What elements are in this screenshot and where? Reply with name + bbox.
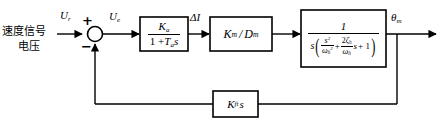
delta-current-label: ΔI [190, 12, 200, 23]
plant-outer-s: s [310, 40, 314, 51]
plant-denominator: s( s2 ωh2 + 2ζh ωh s+ 1) [308, 34, 378, 58]
error-signal-label: Ue [109, 11, 120, 24]
motor-gain-block: Km/Dm [210, 17, 272, 51]
plant-close-paren: ) [371, 35, 375, 58]
input-signal-subscript: r [68, 15, 71, 23]
plant-numerator: 1 [308, 20, 378, 34]
plant-term2: 2ζh ωh [341, 36, 353, 55]
plant-fraction: 1 s( s2 ωh2 + 2ζh ωh s+ 1) [308, 20, 378, 58]
output-signal-label: θm [391, 12, 401, 25]
plant-plus-one: + 1 [357, 41, 370, 51]
feedback-s-symbol: s [238, 98, 243, 110]
sum-plus-sign: + [82, 14, 93, 27]
output-signal-subscript: m [396, 17, 401, 25]
input-signal-symbol: U [60, 9, 68, 21]
amplifier-block: Ka 1 +Tas [140, 17, 188, 51]
sum-minus-sign-left: − [81, 40, 92, 53]
input-label-line1: 速度信号 [2, 26, 46, 37]
amplifier-fraction: Ka 1 +Tas [148, 20, 180, 48]
plant-term1-numerator: s2 [321, 36, 334, 46]
error-signal-symbol: U [109, 10, 117, 22]
feedback-k-symbol: K [227, 98, 234, 110]
input-signal-label: Ur [60, 10, 71, 23]
error-signal-subscript: e [117, 16, 120, 24]
plant-plus-sign: + [334, 41, 341, 51]
motor-d-subscript: m [253, 30, 259, 39]
motor-k-symbol: K [223, 27, 231, 42]
motor-d-symbol: D [244, 27, 253, 42]
feedback-block: Kfts [213, 91, 258, 117]
plant-term2-denominator: ωh [341, 47, 353, 56]
plant-term2-numerator: 2ζh [341, 36, 353, 46]
input-label-line2: 电压 [18, 41, 40, 52]
amplifier-numerator: Ka [148, 20, 180, 35]
amplifier-denominator: 1 +Tas [148, 35, 180, 49]
plant-block: 1 s( s2 ωh2 + 2ζh ωh s+ 1) [301, 10, 386, 67]
plant-term1-denominator: ωh2 [321, 46, 334, 55]
plant-term1: s2 ωh2 [321, 36, 334, 55]
block-diagram-canvas: 速度信号 电压 Ur + − Ue Ka 1 +Tas ΔI Km/Dm 1 s… [0, 0, 443, 124]
plant-open-paren: ( [316, 35, 320, 58]
